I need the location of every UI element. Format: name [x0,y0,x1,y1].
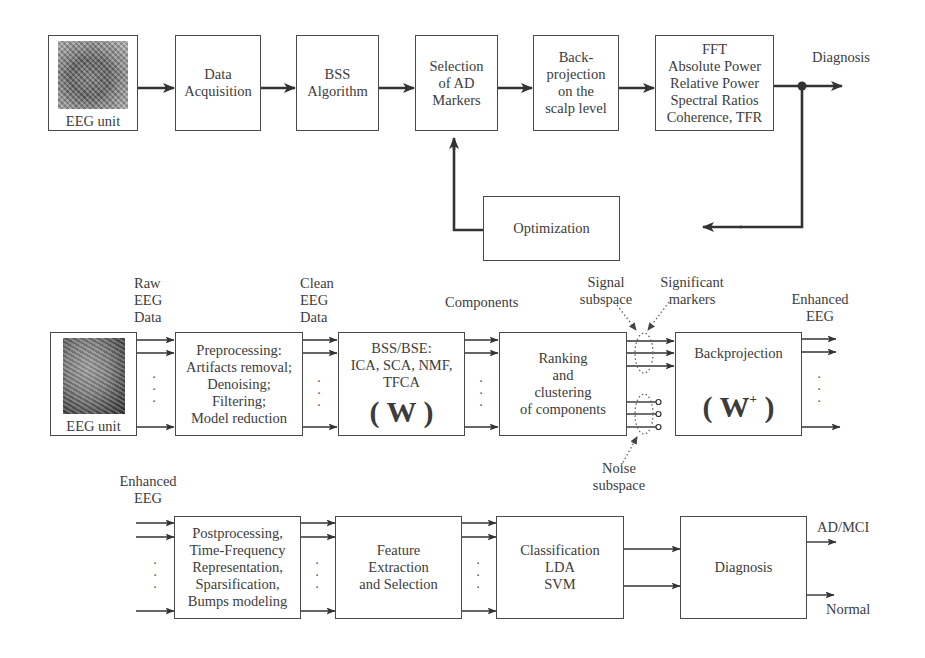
eeg-unit-box-top: EEG unit [48,35,138,131]
enhanced-eeg-label-middle: Enhanced EEG [785,291,855,325]
eeg-cap-photo [58,41,128,109]
data-acquisition-box: Data Acquisition [175,35,261,131]
ellipsis-dots: ··· [149,372,159,408]
ellipsis-dots: ··· [814,372,824,408]
components-label: Components [445,294,518,311]
feature-extraction-box: Feature Extraction and Selection [335,516,462,619]
ellipsis-dots: ··· [476,376,486,412]
ellipsis-dots: ··· [312,558,322,594]
postprocessing-box: Postprocessing, Time-Frequency Represent… [174,516,301,619]
selection-ad-markers-box: Selection of AD Markers [415,35,498,131]
ellipsis-dots: ··· [150,558,160,594]
classification-box: Classification LDA SVM [496,516,624,619]
eeg-unit-label: EEG unit [66,418,120,435]
bss-bse-box: BSS/BSE: ICA, SCA, NMF, TFCA ( W ) [338,332,465,436]
backprojection-scalp-box: Back- projection on the scalp level [533,35,619,131]
eeg-cap-photo [63,338,125,414]
enhanced-eeg-label-bottom: Enhanced EEG [118,473,178,507]
ellipsis-dots: ··· [314,376,324,412]
optimization-box: Optimization [483,196,620,261]
eeg-unit-box-middle: EEG unit [50,332,137,436]
backprojection-box: Backprojection ( W+ ) [675,332,802,436]
w-plus-symbol: ( W+ ) [703,382,775,424]
clean-eeg-data-label: Clean EEG Data [300,275,350,326]
bss-algorithm-box: BSS Algorithm [296,35,379,131]
normal-output-label: Normal [826,601,870,618]
raw-eeg-data-label: Raw EEG Data [134,275,184,326]
spectral-features-box: FFT Absolute Power Relative Power Spectr… [655,35,774,131]
w-matrix-symbol: ( W ) [370,395,434,429]
preprocessing-box: Preprocessing: Artifacts removal; Denois… [175,332,303,436]
signal-subspace-label: Signal subspace [571,274,641,308]
diagnosis-output-label: Diagnosis [812,49,870,66]
eeg-unit-label: EEG unit [66,113,120,130]
diagnosis-box: Diagnosis [680,516,807,619]
ranking-clustering-box: Ranking and clustering of components [499,332,627,436]
noise-subspace-label: Noise subspace [584,460,654,494]
ellipsis-dots: ··· [473,558,483,594]
ad-mci-output-label: AD/MCI [817,519,869,536]
significant-markers-label: Significant markers [652,274,732,308]
